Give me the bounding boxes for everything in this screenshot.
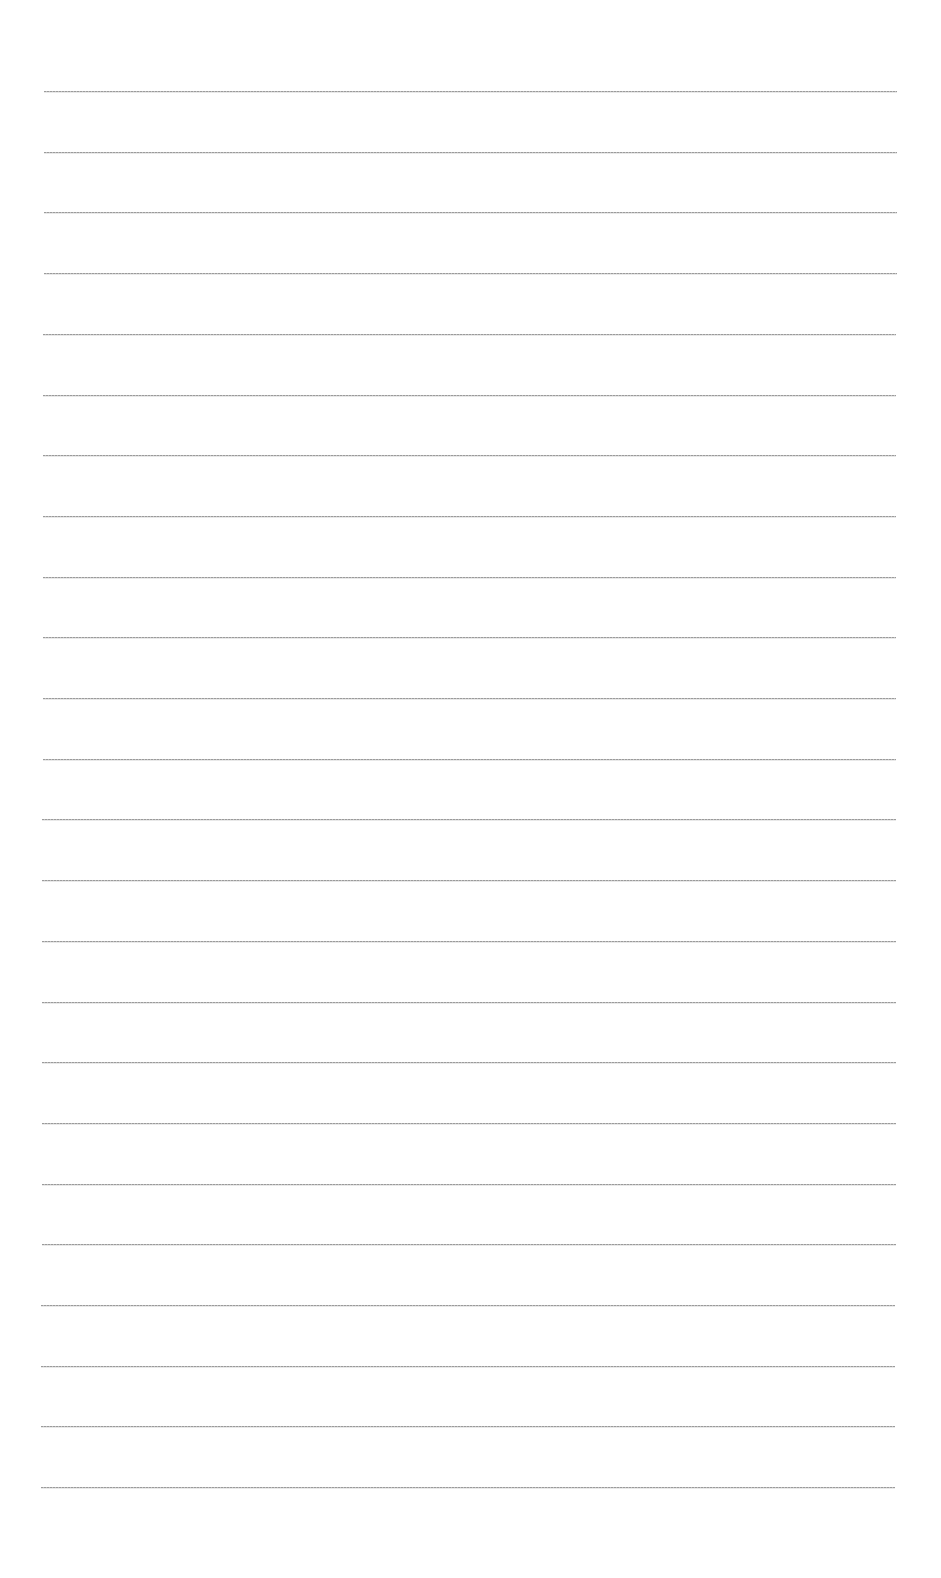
ruled-line: [44, 152, 897, 153]
ruled-line: [41, 1305, 895, 1306]
ruled-line: [43, 395, 896, 396]
ruled-line: [42, 1002, 896, 1003]
ruled-line: [42, 941, 896, 942]
ruled-line: [42, 1244, 896, 1245]
ruled-line: [42, 1123, 896, 1124]
ruled-line: [43, 637, 896, 638]
ruled-line: [43, 698, 896, 699]
ruled-line: [42, 1062, 896, 1063]
ruled-paper-page: [0, 0, 941, 1578]
ruled-line: [42, 819, 896, 820]
ruled-line: [42, 1184, 896, 1185]
ruled-line: [43, 455, 896, 456]
ruled-line: [43, 516, 896, 517]
ruled-line: [43, 577, 896, 578]
ruled-line: [44, 273, 897, 274]
ruled-line: [42, 880, 896, 881]
ruled-line: [41, 1487, 895, 1488]
ruled-line: [44, 212, 897, 213]
ruled-line: [41, 1366, 895, 1367]
ruled-line: [43, 759, 896, 760]
ruled-line: [41, 1426, 895, 1427]
ruled-line: [43, 334, 896, 335]
ruled-line: [44, 91, 897, 92]
